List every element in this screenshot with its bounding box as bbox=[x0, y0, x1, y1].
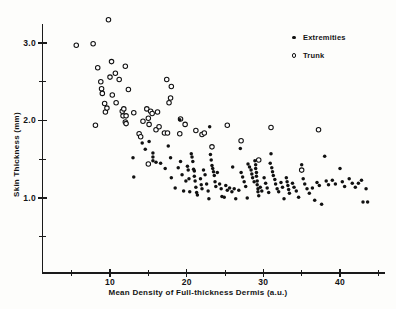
data-point-extremities bbox=[250, 172, 254, 176]
data-point-extremities bbox=[194, 185, 198, 189]
data-point-extremities bbox=[308, 192, 312, 196]
open-circle-icon bbox=[288, 53, 300, 57]
data-point-extremities bbox=[357, 182, 361, 186]
data-point-extremities bbox=[222, 195, 226, 199]
data-point-trunk bbox=[147, 122, 152, 127]
data-point-extremities bbox=[260, 189, 264, 193]
data-point-extremities bbox=[154, 161, 158, 165]
data-point-extremities bbox=[193, 169, 197, 173]
data-point-extremities bbox=[245, 196, 249, 200]
data-point-extremities bbox=[132, 175, 136, 179]
data-point-trunk bbox=[155, 110, 160, 115]
data-point-extremities bbox=[295, 189, 299, 193]
data-point-extremities bbox=[338, 167, 342, 171]
data-point-extremities bbox=[209, 153, 213, 157]
data-point-extremities bbox=[268, 161, 272, 165]
data-point-extremities bbox=[300, 163, 304, 167]
data-point-trunk bbox=[105, 106, 110, 111]
legend-label-extremities: Extremities bbox=[303, 33, 346, 42]
data-point-trunk bbox=[165, 131, 170, 136]
data-point-trunk bbox=[256, 158, 261, 163]
data-point-extremities bbox=[270, 166, 274, 170]
data-point-trunk bbox=[202, 131, 207, 136]
data-point-extremities bbox=[287, 188, 291, 192]
data-point-extremities bbox=[186, 168, 190, 172]
data-point-extremities bbox=[203, 173, 207, 177]
data-point-extremities bbox=[267, 191, 271, 195]
data-point-trunk bbox=[164, 77, 169, 82]
data-point-trunk bbox=[167, 100, 172, 105]
data-point-extremities bbox=[205, 182, 209, 186]
data-point-extremities bbox=[173, 186, 177, 190]
data-point-extremities bbox=[199, 183, 203, 187]
data-point-extremities bbox=[323, 154, 327, 158]
data-point-extremities bbox=[159, 161, 163, 165]
data-point-trunk bbox=[126, 87, 131, 92]
data-point-extremities bbox=[163, 167, 167, 171]
data-point-extremities bbox=[167, 144, 171, 148]
data-point-extremities bbox=[187, 177, 191, 181]
data-point-extremities bbox=[184, 179, 188, 183]
y-axis-title: Skin Thickness (mm) bbox=[12, 90, 21, 220]
data-point-extremities bbox=[334, 182, 338, 186]
data-point-extremities bbox=[286, 184, 290, 188]
data-point-extremities bbox=[288, 192, 292, 196]
data-point-extremities bbox=[274, 182, 278, 186]
data-point-extremities bbox=[320, 202, 324, 206]
data-point-extremities bbox=[281, 185, 285, 189]
data-point-extremities bbox=[151, 155, 155, 159]
data-point-extremities bbox=[211, 167, 215, 171]
data-point-extremities bbox=[305, 187, 309, 191]
data-point-extremities bbox=[318, 184, 322, 188]
data-point-extremities bbox=[209, 158, 213, 162]
data-point-extremities bbox=[212, 170, 216, 174]
data-point-extremities bbox=[257, 194, 261, 198]
data-point-extremities bbox=[256, 190, 260, 194]
data-point-extremities bbox=[144, 147, 148, 151]
data-point-trunk bbox=[124, 114, 129, 119]
data-point-extremities bbox=[361, 200, 365, 204]
data-point-extremities bbox=[277, 190, 281, 194]
filled-circle-icon bbox=[288, 36, 300, 39]
data-point-trunk bbox=[113, 71, 118, 76]
data-point-extremities bbox=[244, 185, 248, 189]
data-point-trunk bbox=[150, 111, 155, 116]
data-point-extremities bbox=[131, 156, 135, 160]
x-axis-title: Mean Density of Full-thickness Dermis (a… bbox=[0, 288, 396, 297]
data-point-extremities bbox=[251, 176, 255, 180]
data-point-extremities bbox=[327, 183, 331, 187]
data-point-extremities bbox=[176, 166, 180, 170]
data-point-extremities bbox=[228, 186, 232, 190]
y-tick-label: 3.0 bbox=[8, 38, 36, 48]
data-point-extremities bbox=[151, 159, 155, 163]
data-point-trunk bbox=[110, 93, 115, 98]
data-point-extremities bbox=[147, 140, 151, 144]
data-point-extremities bbox=[151, 151, 155, 155]
data-point-trunk bbox=[74, 43, 79, 48]
data-point-extremities bbox=[343, 185, 347, 189]
data-point-extremities bbox=[218, 182, 222, 186]
data-point-extremities bbox=[180, 173, 184, 177]
data-point-trunk bbox=[132, 111, 137, 116]
data-point-extremities bbox=[241, 175, 245, 179]
data-point-extremities bbox=[234, 197, 238, 201]
data-point-extremities bbox=[255, 179, 259, 183]
data-point-trunk bbox=[225, 123, 230, 128]
data-point-extremities bbox=[178, 118, 182, 122]
data-point-trunk bbox=[141, 119, 146, 124]
data-point-extremities bbox=[186, 164, 190, 168]
data-point-trunk bbox=[269, 125, 274, 130]
data-point-extremities bbox=[252, 180, 256, 184]
data-point-extremities bbox=[179, 160, 183, 164]
data-point-trunk bbox=[123, 64, 128, 69]
data-point-extremities bbox=[366, 200, 370, 204]
data-point-extremities bbox=[237, 189, 241, 193]
data-point-extremities bbox=[254, 167, 257, 171]
data-point-extremities bbox=[231, 165, 235, 169]
data-point-trunk bbox=[114, 100, 119, 105]
data-point-extremities bbox=[285, 176, 289, 180]
data-point-extremities bbox=[249, 168, 253, 172]
data-point-trunk bbox=[194, 128, 199, 133]
data-point-extremities bbox=[291, 182, 295, 186]
data-point-trunk bbox=[169, 84, 174, 89]
